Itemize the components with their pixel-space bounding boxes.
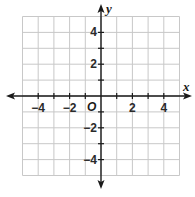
y-axis-label: y (104, 1, 112, 16)
coordinate-plane: −4−22442−2−4 x y O (0, 0, 195, 197)
y-tick-label: −4 (83, 153, 97, 167)
y-tick-label: −2 (83, 121, 97, 135)
origin-label: O (87, 100, 97, 114)
y-tick-label: 4 (90, 25, 97, 39)
y-tick-label: 2 (90, 57, 97, 71)
x-tick-label: 2 (129, 101, 136, 115)
x-tick-label: −4 (31, 101, 45, 115)
x-tick-label: −2 (63, 101, 77, 115)
x-axis-label: x (182, 79, 190, 94)
x-tick-label: 4 (160, 101, 167, 115)
